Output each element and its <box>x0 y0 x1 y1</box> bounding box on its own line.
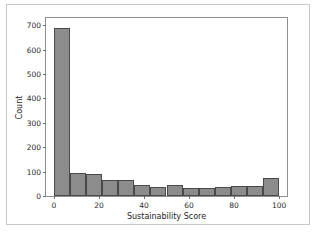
histogram-bar <box>150 187 166 196</box>
histogram-figure: 0100200300400500600700020406080100 Susta… <box>0 0 317 233</box>
histogram-bar <box>215 187 231 196</box>
x-axis-label: Sustainability Score <box>45 212 288 221</box>
y-axis-tick-label: 100 <box>27 167 41 176</box>
y-axis-tick <box>43 98 46 99</box>
histogram-bar <box>134 185 150 196</box>
y-axis-tick-label: 300 <box>27 118 41 127</box>
histogram-bar <box>86 174 102 196</box>
histogram-bar <box>231 186 247 196</box>
histogram-bar <box>263 178 279 196</box>
x-axis-tick <box>279 196 280 199</box>
x-axis-tick <box>144 196 145 199</box>
x-axis-tick-label: 60 <box>184 201 194 210</box>
y-axis-label: Count <box>14 17 26 197</box>
y-axis-tick <box>43 196 46 197</box>
x-axis-tick <box>54 196 55 199</box>
y-axis-label-text: Count <box>16 95 25 119</box>
x-axis-tick-label: 100 <box>272 201 286 210</box>
histogram-bar <box>247 186 263 196</box>
x-axis-tick-label: 20 <box>94 201 104 210</box>
y-axis-tick <box>43 147 46 148</box>
y-axis-tick-label: 200 <box>27 143 41 152</box>
y-axis-tick-label: 600 <box>27 45 41 54</box>
y-axis-tick-label: 500 <box>27 70 41 79</box>
histogram-bar <box>102 180 118 196</box>
histogram-bar <box>70 173 86 196</box>
y-axis-tick <box>43 74 46 75</box>
x-axis-tick <box>189 196 190 199</box>
histogram-bar <box>54 28 70 196</box>
y-axis-tick <box>43 123 46 124</box>
x-axis-label-text: Sustainability Score <box>127 212 206 221</box>
y-axis-tick <box>43 25 46 26</box>
x-axis-tick-label: 0 <box>51 201 56 210</box>
plot-axes: 0100200300400500600700020406080100 <box>45 17 288 197</box>
y-axis-tick-label: 700 <box>27 21 41 30</box>
y-axis-tick-label: 0 <box>36 192 41 201</box>
histogram-bar <box>183 188 199 196</box>
histogram-bar <box>167 185 183 196</box>
y-axis-tick <box>43 172 46 173</box>
y-axis-tick <box>43 50 46 51</box>
y-axis-tick-label: 400 <box>27 94 41 103</box>
x-axis-tick <box>99 196 100 199</box>
x-axis-tick-label: 80 <box>229 201 239 210</box>
x-axis-tick-label: 40 <box>139 201 149 210</box>
x-axis-tick <box>234 196 235 199</box>
plot-area <box>46 18 287 196</box>
histogram-bar <box>199 188 215 196</box>
histogram-bar <box>118 180 134 196</box>
